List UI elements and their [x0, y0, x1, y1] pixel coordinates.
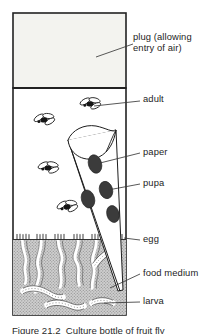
plug-region [13, 13, 126, 88]
label-larva: larva [143, 295, 164, 306]
label-plug: plug (allowing entry of air) [133, 31, 192, 53]
label-pupa: pupa [143, 177, 164, 188]
label-food-medium: food medium [143, 267, 198, 278]
label-paper: paper [143, 146, 167, 157]
figure-caption: Figure 21.2 Culture bottle of fruit fly [12, 325, 165, 334]
label-egg: egg [143, 233, 159, 244]
figure-root: plug (allowing entry of air) adult paper… [0, 0, 222, 334]
label-adult: adult [143, 93, 164, 104]
